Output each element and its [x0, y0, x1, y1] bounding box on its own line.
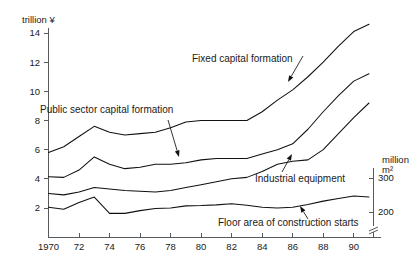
y-tick-label-12: 12: [29, 57, 40, 68]
x-tick-label-1974: 74: [104, 241, 115, 252]
series-line-floor-area-of-construction-starts: [49, 196, 370, 213]
annotation-leader-public-sector-capital-formation: [168, 120, 177, 151]
annotation-leader-fixed-capital-formation: [291, 56, 303, 76]
x-tick-label-1990: 90: [348, 241, 359, 252]
annotation-label-fixed-capital-formation: Fixed capital formation: [192, 53, 293, 64]
y-tick-label-2: 2: [35, 202, 40, 213]
y-axis-right-title-line2: m²: [382, 164, 393, 175]
x-tick-label-1978: 78: [165, 241, 176, 252]
y-axis-left-title: trillion ¥: [22, 14, 55, 25]
y-axis-right-tick-labels: 200300: [378, 172, 394, 217]
y-axis-left-tick-labels: 2468101214: [29, 27, 40, 213]
x-tick-label-1988: 88: [318, 241, 329, 252]
x-tick-label-1982: 82: [226, 241, 237, 252]
annotation-fixed-capital-formation: Fixed capital formation: [192, 53, 303, 82]
x-tick-label-1980: 80: [196, 241, 207, 252]
y2-tick-label-200: 200: [378, 206, 394, 217]
annotation-group: Fixed capital formationPublic sector cap…: [40, 53, 359, 228]
series-line-public-sector-capital-formation: [49, 74, 370, 178]
annotation-label-industrial-equipment: Industrial equipment: [255, 173, 345, 184]
x-tick-label-1972: 72: [74, 241, 85, 252]
annotation-label-public-sector-capital-formation: Public sector capital formation: [40, 104, 173, 115]
annotation-public-sector-capital-formation: Public sector capital formation: [40, 104, 179, 157]
y-tick-label-10: 10: [29, 86, 40, 97]
y-tick-label-8: 8: [35, 115, 40, 126]
line-chart: 2468101214 197072747678808284868890 2003…: [0, 0, 411, 264]
annotation-floor-area-of-construction-starts: Floor area of construction starts: [218, 206, 359, 228]
annotation-leader-industrial-equipment: [282, 160, 289, 172]
x-tick-label-1970: 1970: [38, 241, 59, 252]
annotation-arrow-industrial-equipment: [287, 154, 292, 161]
y-tick-label-6: 6: [35, 144, 40, 155]
y-tick-label-4: 4: [35, 173, 40, 184]
x-axis-tick-labels: 197072747678808284868890: [38, 241, 359, 252]
annotation-arrow-floor-area-of-construction-starts: [300, 206, 305, 213]
y-tick-label-14: 14: [29, 27, 40, 38]
x-tick-label-1986: 86: [287, 241, 298, 252]
annotation-label-floor-area-of-construction-starts: Floor area of construction starts: [218, 217, 359, 228]
series-line-fixed-capital-formation: [49, 24, 370, 152]
annotation-arrow-fixed-capital-formation: [288, 75, 293, 82]
x-tick-label-1976: 76: [135, 241, 146, 252]
annotation-arrow-public-sector-capital-formation: [175, 150, 180, 157]
chart-container: 2468101214 197072747678808284868890 2003…: [0, 0, 411, 264]
x-tick-label-1984: 84: [257, 241, 268, 252]
